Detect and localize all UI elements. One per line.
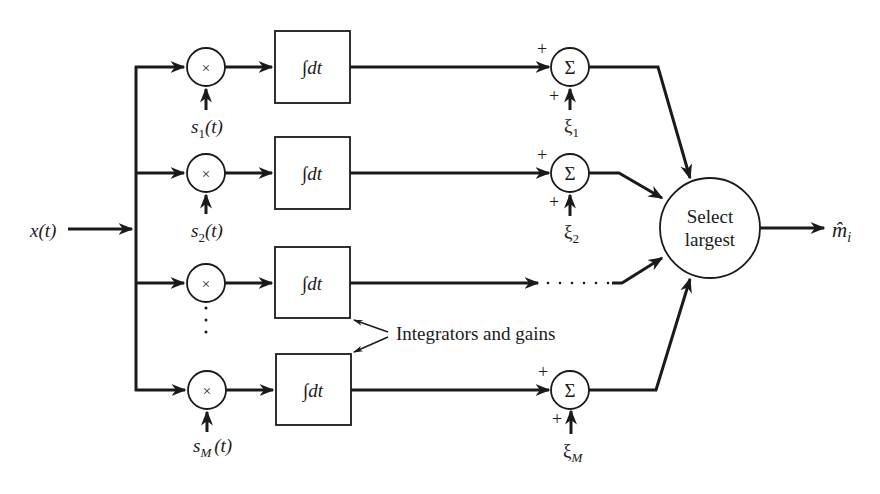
sigma-icon: Σ (564, 57, 575, 78)
plus-sign: + (537, 145, 547, 165)
sum-to-selector-arrow (589, 279, 690, 390)
selector-node (660, 178, 760, 278)
noise-label: ξM (563, 440, 583, 465)
reference-label: sM(t) (193, 435, 232, 460)
annotation-label: Integrators and gains (396, 323, 555, 344)
integrator-label: ∫dt (302, 380, 324, 403)
branch-M: × sM(t) ∫dt + Σ + ξM (135, 279, 690, 465)
receiver-diagram: x(t) × s1(t) ∫dt + Σ + ξ1 × s2(t) ∫dt + (0, 0, 880, 494)
input-label: x(t) (29, 220, 56, 242)
sum-to-selector-arrow (589, 173, 662, 198)
multiply-icon: × (203, 383, 211, 399)
integrator-label: ∫dt (301, 273, 323, 296)
plus-sign: + (549, 86, 559, 106)
to-selector-arrow (612, 258, 662, 283)
integrators-annotation: Integrators and gains (354, 320, 555, 352)
selector-label-line1: Select (687, 206, 734, 227)
noise-label: ξ2 (564, 221, 579, 246)
plus-sign: + (549, 192, 559, 212)
integrator-label: ∫dt (301, 57, 323, 80)
sigma-icon: Σ (564, 380, 575, 401)
multiply-icon: × (202, 276, 210, 292)
plus-sign: + (538, 362, 548, 382)
reference-label: s1(t) (191, 116, 223, 141)
integrator-label: ∫dt (301, 163, 323, 186)
annotation-pointer (354, 337, 388, 352)
vertical-ellipsis (205, 307, 208, 334)
branch-3: × ∫dt (135, 247, 662, 334)
selector-label-line2: largest (685, 229, 736, 250)
sigma-icon: Σ (564, 163, 575, 184)
select-largest-block: Select largest m̂i (660, 178, 851, 278)
input-signal: x(t) (29, 220, 132, 242)
horizontal-ellipsis (547, 282, 610, 285)
output-label: m̂i (832, 218, 851, 245)
noise-label: ξ1 (564, 115, 579, 140)
branch-1: × s1(t) ∫dt + Σ + ξ1 (135, 31, 690, 178)
annotation-pointer (354, 320, 388, 332)
branch-2: × s2(t) ∫dt + Σ + ξ2 (135, 137, 662, 246)
multiply-icon: × (202, 60, 210, 76)
sum-to-selector-arrow (589, 67, 690, 178)
multiply-icon: × (202, 166, 210, 182)
plus-sign: + (552, 409, 562, 429)
plus-sign: + (537, 39, 547, 59)
reference-label: s2(t) (191, 220, 223, 245)
